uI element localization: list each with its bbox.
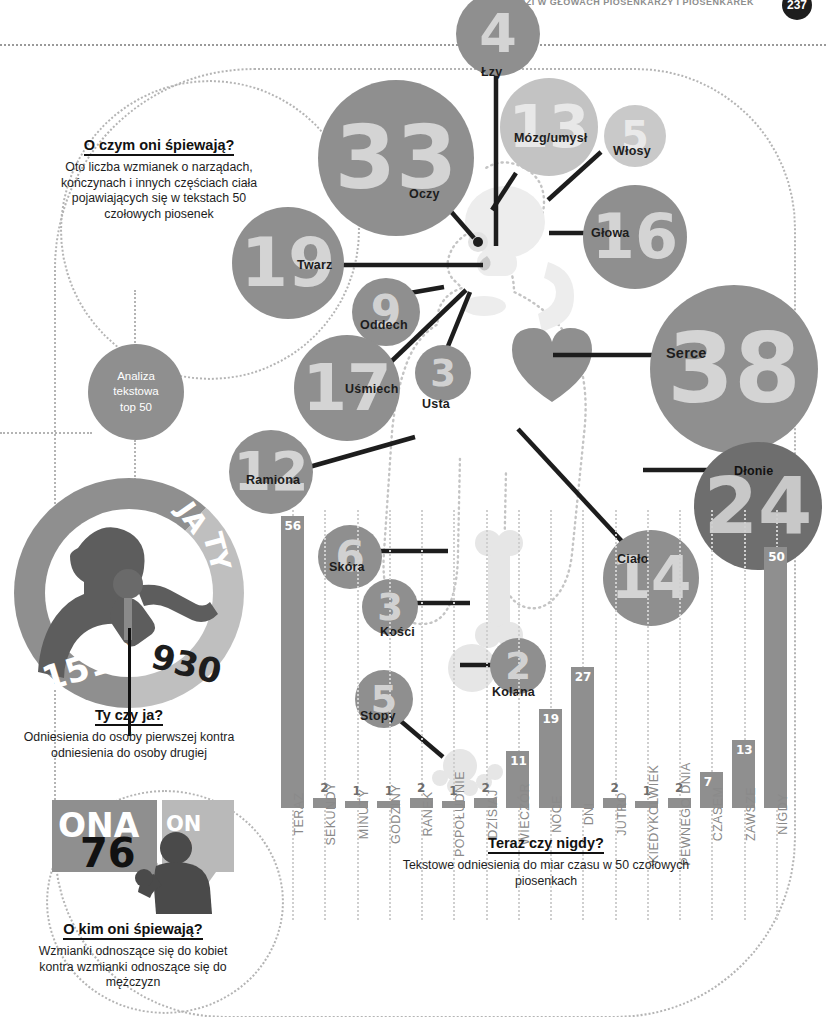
bar-column[interactable]: 1GODZINY [373,516,405,808]
bubble-serce-value: 38 [667,321,801,417]
analysis-connector-down [134,440,136,480]
bar-column[interactable]: 7CZASEM [695,516,727,808]
person-donut-chart[interactable]: JA TY 1513 930 [14,478,244,708]
bubble-oczy-label: Oczy [409,187,440,201]
person-donut-caption: Ty czy ja? Odniesienia do osoby pierwsze… [6,706,252,761]
bar-category-label: TERAZ [292,793,306,836]
bar-category-label: CZASEM [711,787,725,842]
bubble-dlonie-label: Dłonie [734,464,773,478]
bubble-oddech[interactable]: 9 [352,278,420,346]
bar-value: 56 [285,519,302,533]
bar-category-label: ZAWSZE [744,787,758,841]
bar-column[interactable]: 1MINUTY [341,516,373,808]
person-donut-title: Ty czy ja? [95,707,163,726]
bar-category-label: JUTRO [615,792,629,836]
bar-category-label: MINUTY [357,789,371,839]
bubble-usta-value: 3 [430,355,456,392]
bubble-serce[interactable]: 38 [650,285,818,453]
bubble-mozg-value: 13 [509,98,590,156]
bar-column[interactable]: 2RANEK [405,516,437,808]
bar-value: 19 [543,712,560,726]
bar-gridline [744,510,746,920]
bar-column[interactable]: 2SEKUNDY [308,516,340,808]
on-label: ON [166,812,201,836]
bar-column[interactable]: 27DNI [566,516,598,808]
analysis-badge: Analiza tekstowa top 50 [88,344,184,440]
gender-comparison[interactable]: ONA 76 ON 40 [52,800,222,892]
bubble-usta-label: Usta [422,397,450,411]
bubble-oddech-label: Oddech [360,318,408,332]
intro-body: Oto liczba wzmianek o narządach, kończyn… [44,160,274,223]
bar-value: 50 [768,550,785,564]
bubble-ramiona-value: 12 [233,445,308,499]
intro-callout: O czym oni śpiewają? Oto liczba wzmianek… [44,136,274,223]
bar-column[interactable]: 13ZAWSZE [728,516,760,808]
header-divider [0,44,826,46]
analysis-badge-line1: Analiza [117,369,155,385]
bar-column[interactable]: 11WIECZÓR [502,516,534,808]
bar-column[interactable]: 19NOCE [534,516,566,808]
intro-connector [134,290,136,346]
bubble-lzy-label: Łzy [481,65,502,79]
bar-column[interactable]: 2PEWNEGO DNIA [663,516,695,808]
bar-chart-bars: 56TERAZ2SEKUNDY1MINUTY1GODZINY2RANEK1POP… [276,516,792,808]
bar-category-label: SEKUNDY [324,782,338,845]
bar-category-label: RANEK [421,791,435,836]
page-number-badge: 237 [782,0,812,20]
bar[interactable]: 27 [571,667,594,808]
bubble-mozg-label: Mózg/umysł [514,131,588,145]
intro-title: O czym oni śpiewają? [84,137,235,156]
gender-title: O kim oni śpiewają? [63,921,202,940]
bubble-glowa-label: Głowa [591,226,630,240]
gender-caption: O kim oni śpiewają? Wzmianki odnoszące s… [22,920,244,991]
bubble-ramiona-label: Ramiona [246,473,300,487]
bar[interactable]: 19 [539,709,562,808]
bubble-lzy-value: 4 [479,7,517,61]
bar-category-label: NOCE [550,795,564,833]
time-chart-caption: Teraz czy nigdy? Tekstowe odniesienia do… [396,834,696,889]
gender-body: Wzmianki odnoszące się do kobiet kontra … [22,944,244,991]
bar-column[interactable]: 1KIEDYKOLWIEK [631,516,663,808]
bubble-twarz-label: Twarz [297,258,333,272]
bar-column[interactable]: 2JUTRO [599,516,631,808]
bar[interactable]: 56 [281,516,304,808]
bar-category-label: DNI [582,803,596,826]
analysis-badge-line3: top 50 [120,400,152,416]
bar-column[interactable]: 1POPOŁUDNIE [437,516,469,808]
bar-category-label: NIGDY [776,793,790,835]
on-value: 40 [168,834,192,856]
bar-gridline [324,510,326,920]
ona-value: 76 [80,830,136,876]
bar-column[interactable]: 2DZISIAJ [470,516,502,808]
analysis-connector-left [0,432,92,434]
time-chart-title: Teraz czy nigdy? [488,835,604,854]
bar-gridline [389,510,391,920]
bubble-serce-label: Serce [666,345,707,361]
time-bar-chart[interactable]: 56TERAZ2SEKUNDY1MINUTY1GODZINY2RANEK1POP… [276,516,792,920]
bubble-oczy[interactable]: 33 [318,80,474,236]
bar-column[interactable]: 50NIGDY [760,516,792,808]
bar-gridline [357,510,359,920]
infographic-page: CO SIEDZI W GŁOWACH PIOSENKARZY I PIOSEN… [0,0,826,1017]
bubble-usta[interactable]: 3 [415,345,471,401]
bar-category-label: DZISIAJ [486,789,500,838]
bar-value: 13 [736,743,753,757]
bubble-usmiech-label: Uśmiech [345,382,399,396]
analysis-badge-line2: tekstowa [113,384,158,400]
person-donut-body: Odniesienia do osoby pierwszej kontra od… [6,730,252,761]
bubble-wlosy-label: Włosy [613,144,651,158]
bar-value: 11 [510,754,527,768]
bubble-mozg[interactable]: 13 [500,78,598,176]
bar-value: 27 [575,670,592,684]
time-chart-body: Tekstowe odniesienia do miar czasu w 50 … [396,858,696,889]
bar-column[interactable]: 56TERAZ [276,516,308,808]
bar-gridline [711,510,713,920]
bar[interactable]: 50 [764,547,787,808]
